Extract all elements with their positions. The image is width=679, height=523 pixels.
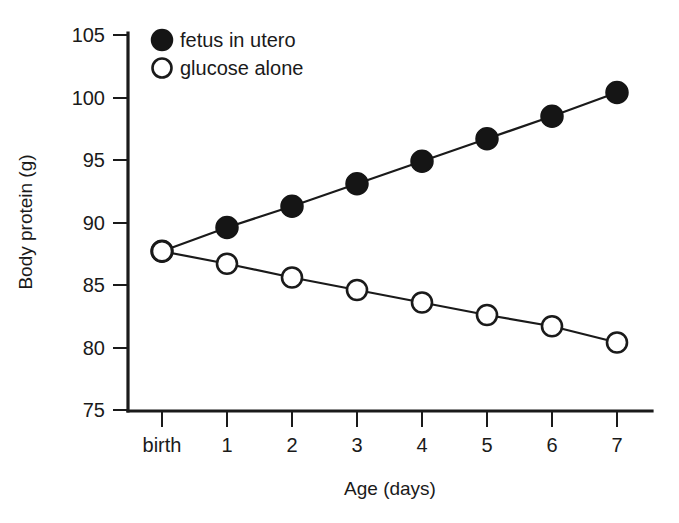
- legend-open-circle-icon: [153, 59, 172, 78]
- x-tick-label-7: 7: [611, 434, 622, 456]
- x-axis-ticks: [162, 411, 617, 427]
- data-point-5: [477, 305, 497, 325]
- data-point-4: [411, 150, 433, 172]
- legend-filled-circle-icon: [152, 30, 173, 51]
- x-axis-title: Age (days): [344, 478, 436, 499]
- data-point-5: [476, 128, 498, 150]
- legend-label-glucose-alone: glucose alone: [180, 57, 303, 79]
- data-point-1: [216, 217, 238, 239]
- x-tick-label-1: 1: [221, 434, 232, 456]
- data-point-1: [217, 254, 237, 274]
- data-point-6: [541, 105, 563, 127]
- data-point-6: [542, 316, 562, 336]
- data-point-3: [346, 173, 368, 195]
- legend-label-fetus-in-utero: fetus in utero: [180, 29, 296, 51]
- x-tick-label-birth: birth: [143, 434, 182, 456]
- data-point-7: [607, 333, 627, 353]
- chart-legend: fetus in utero glucose alone: [152, 29, 304, 79]
- data-point-3: [347, 280, 367, 300]
- y-tick-label-85: 85: [83, 274, 105, 296]
- x-tick-label-4: 4: [416, 434, 427, 456]
- y-tick-label-75: 75: [83, 399, 105, 421]
- x-tick-label-6: 6: [546, 434, 557, 456]
- data-point-birth: [152, 241, 172, 261]
- data-point-2: [281, 195, 303, 217]
- data-point-4: [412, 293, 432, 313]
- y-axis-ticks: [113, 35, 128, 410]
- data-point-2: [282, 268, 302, 288]
- y-tick-label-80: 80: [83, 337, 105, 359]
- y-axis-title: Body protein (g): [15, 154, 36, 289]
- y-tick-label-105: 105: [72, 24, 105, 46]
- line-chart-plot: 105 100 95 90 85 80 75 birth 1 2 3 4 5 6…: [0, 0, 679, 523]
- x-tick-label-2: 2: [286, 434, 297, 456]
- x-tick-label-5: 5: [481, 434, 492, 456]
- x-tick-label-3: 3: [351, 434, 362, 456]
- y-tick-label-100: 100: [72, 87, 105, 109]
- y-tick-label-95: 95: [83, 149, 105, 171]
- chart-figure: 105 100 95 90 85 80 75 birth 1 2 3 4 5 6…: [0, 0, 679, 523]
- data-point-7: [606, 82, 628, 104]
- y-tick-label-90: 90: [83, 212, 105, 234]
